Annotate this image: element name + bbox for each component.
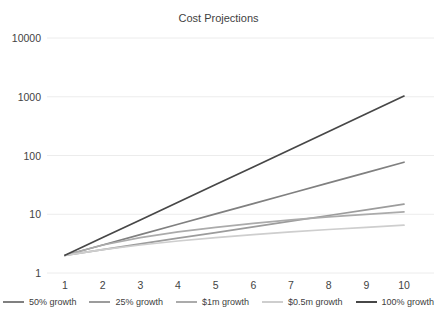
x-axis-tick-label: 1: [53, 279, 77, 291]
legend-item-25-growth: 25% growth: [89, 297, 163, 307]
legend-item-50-growth: 50% growth: [3, 297, 77, 307]
y-axis-tick-label: 10000: [0, 32, 41, 44]
legend-label: $0.5m growth: [288, 297, 343, 307]
cost-projections-chart: Cost Projections 110100100010000 1234567…: [0, 0, 437, 329]
legend-label: $1m growth: [202, 297, 249, 307]
legend: 50% growth25% growth$1m growth$0.5m grow…: [0, 297, 437, 307]
y-axis-tick-label: 10: [0, 208, 41, 220]
legend-label: 50% growth: [29, 297, 77, 307]
legend-swatch-100-growth: [356, 301, 377, 303]
x-axis-tick-label: 5: [204, 279, 228, 291]
legend-item-0-5m-growth: $0.5m growth: [262, 297, 343, 307]
y-axis-tick-label: 100: [0, 150, 41, 162]
legend-swatch-0-5m-growth: [262, 301, 283, 303]
legend-item-100-growth: 100% growth: [356, 297, 435, 307]
x-axis-tick-label: 9: [354, 279, 378, 291]
x-axis-tick-label: 3: [128, 279, 152, 291]
legend-swatch-25-growth: [89, 301, 110, 303]
legend-swatch-50-growth: [3, 301, 24, 303]
x-axis-tick-label: 2: [91, 279, 115, 291]
y-axis-tick-label: 1: [0, 267, 41, 279]
x-axis-tick-label: 10: [392, 279, 416, 291]
legend-item-1m-growth: $1m growth: [176, 297, 249, 307]
legend-label: 25% growth: [115, 297, 163, 307]
y-axis-tick-label: 1000: [0, 91, 41, 103]
legend-label: 100% growth: [382, 297, 435, 307]
x-axis-tick-label: 8: [317, 279, 341, 291]
legend-swatch-1m-growth: [176, 301, 197, 303]
x-axis-tick-label: 4: [166, 279, 190, 291]
x-axis-tick-label: 7: [279, 279, 303, 291]
x-axis-tick-label: 6: [241, 279, 265, 291]
